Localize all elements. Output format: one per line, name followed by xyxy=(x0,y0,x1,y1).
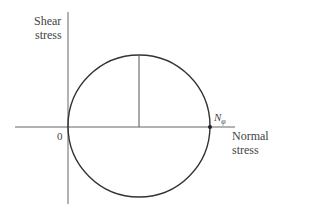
y-axis-label-stress: stress xyxy=(35,29,62,42)
origin-label: 0 xyxy=(57,130,63,143)
x-axis-label-stress: stress xyxy=(232,144,259,157)
phi-subscript: φ xyxy=(221,117,225,126)
n-phi-point xyxy=(208,125,212,129)
y-axis-label-shear: Shear xyxy=(34,15,61,28)
n-phi-label: Nφ xyxy=(214,111,226,128)
x-axis-label-normal: Normal xyxy=(232,130,269,143)
